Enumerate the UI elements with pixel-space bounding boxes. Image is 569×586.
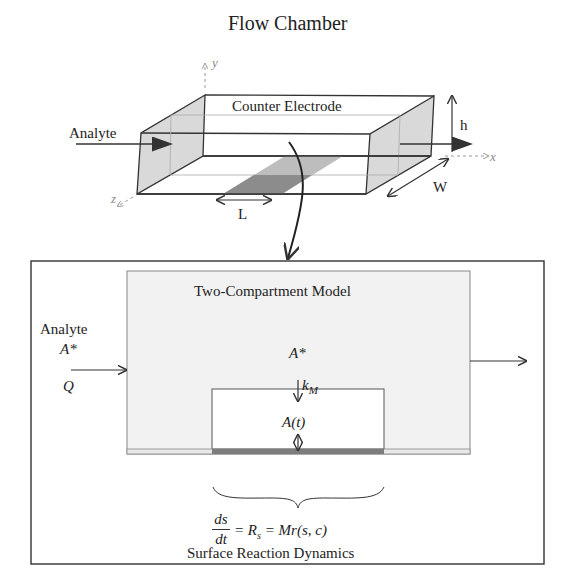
y-axis-label: y [212,56,218,69]
inlet-concentration: A* [60,342,77,357]
height-label: h [460,118,468,133]
inner-compartment-label: A(t) [282,415,305,430]
flow-rate: Q [63,379,74,394]
bulk-concentration: A* [289,346,306,361]
flow-chamber-title: Flow Chamber [228,13,347,33]
z-axis-label: z [111,192,116,205]
width-label: W [433,180,447,195]
length-label: L [238,207,247,222]
inlet-label: Analyte [69,126,116,141]
model-inlet-label: Analyte [40,322,87,337]
mass-transport-coefficient: kM [302,378,318,396]
rate-equation: = Rs = Mr(s, c) [234,523,327,541]
right-face [366,96,434,194]
model-title: Two-Compartment Model [194,284,351,299]
x-axis-label: x [490,150,496,163]
flow-chamber [76,64,488,258]
two-compartment-model [31,261,544,564]
surface-reaction-caption: Surface Reaction Dynamics [187,546,354,561]
z-axis [118,197,133,206]
counter-electrode-label: Counter Electrode [232,99,342,114]
rate-derivative: ds dt [212,512,230,547]
